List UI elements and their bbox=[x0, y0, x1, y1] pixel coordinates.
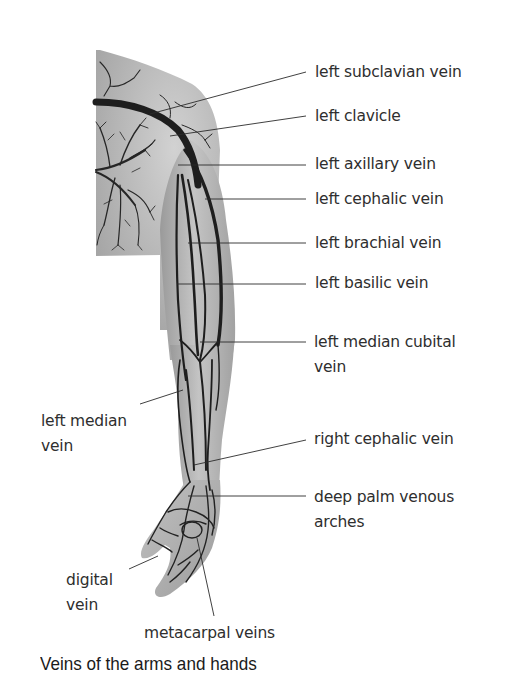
label-left-brachial-vein: left brachial vein bbox=[315, 231, 441, 256]
label-text: left cephalic vein bbox=[315, 190, 444, 208]
label-text: left clavicle bbox=[315, 107, 401, 125]
label-left-median-vein: left median vein bbox=[41, 409, 127, 459]
label-text-line-1: left median cubital bbox=[314, 330, 456, 355]
leader-left-median-vein bbox=[140, 390, 183, 404]
label-deep-palm-venous-arches: deep palm venous arches bbox=[314, 485, 454, 535]
label-text: left subclavian vein bbox=[315, 63, 462, 81]
label-text-line-2: arches bbox=[314, 510, 454, 535]
label-text: left brachial vein bbox=[315, 234, 441, 252]
label-right-cephalic-vein: right cephalic vein bbox=[314, 427, 454, 452]
label-text-line-1: digital bbox=[66, 568, 113, 593]
label-digital-vein: digital vein bbox=[66, 568, 113, 618]
label-left-subclavian-vein: left subclavian vein bbox=[315, 60, 462, 85]
label-metacarpal-veins: metacarpal veins bbox=[144, 621, 275, 646]
label-text: right cephalic vein bbox=[314, 430, 454, 448]
label-text-line-2: vein bbox=[66, 593, 113, 618]
label-left-clavicle: left clavicle bbox=[315, 104, 401, 129]
label-text-line-2: vein bbox=[41, 434, 127, 459]
figure-caption: Veins of the arms and hands bbox=[40, 653, 257, 675]
label-text-line-1: left median bbox=[41, 409, 127, 434]
label-left-median-cubital-vein: left median cubital vein bbox=[314, 330, 456, 380]
label-text-line-2: vein bbox=[314, 355, 456, 380]
label-text: metacarpal veins bbox=[144, 624, 275, 642]
label-left-axillary-vein: left axillary vein bbox=[315, 152, 436, 177]
label-text: left axillary vein bbox=[315, 155, 436, 173]
label-left-basilic-vein: left basilic vein bbox=[315, 271, 428, 296]
label-text-line-1: deep palm venous bbox=[314, 485, 454, 510]
label-text: left basilic vein bbox=[315, 274, 428, 292]
label-left-cephalic-vein: left cephalic vein bbox=[315, 187, 444, 212]
